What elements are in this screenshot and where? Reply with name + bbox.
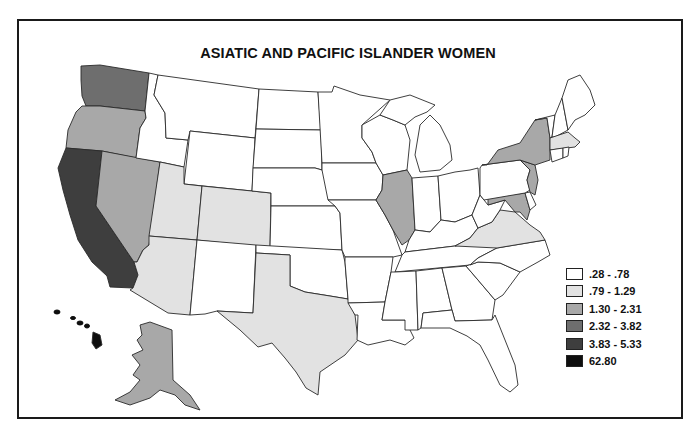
state-hi[interactable] [54, 310, 102, 349]
state-wy[interactable] [184, 131, 255, 191]
state-ak[interactable] [115, 322, 200, 410]
state-ny[interactable] [482, 118, 550, 165]
legend-swatch [566, 338, 583, 350]
map-legend: .28 - .78 .79 - 1.29 1.30 - 2.31 2.32 - … [566, 265, 642, 370]
legend-item: 2.32 - 3.82 [566, 318, 642, 336]
state-wa[interactable] [81, 65, 149, 111]
state-ks[interactable] [270, 206, 342, 250]
legend-label: 3.83 - 5.33 [589, 338, 642, 350]
legend-item: 3.83 - 5.33 [566, 335, 642, 353]
state-me[interactable] [562, 75, 595, 130]
legend-item: 1.30 - 2.31 [566, 300, 642, 318]
legend-label: 1.30 - 2.31 [589, 303, 642, 315]
state-nm[interactable] [190, 240, 256, 315]
state-ia[interactable] [322, 163, 383, 200]
state-fl[interactable] [421, 310, 518, 392]
legend-label: .28 - .78 [589, 268, 629, 280]
legend-swatch [566, 355, 583, 367]
state-sd[interactable] [253, 129, 322, 170]
state-in[interactable] [412, 176, 441, 232]
state-mt[interactable] [154, 75, 259, 140]
legend-item: .79 - 1.29 [566, 283, 642, 301]
legend-swatch [566, 320, 583, 332]
legend-swatch [566, 285, 583, 297]
state-nd[interactable] [256, 89, 321, 130]
legend-item: .28 - .78 [566, 265, 642, 283]
legend-label: 2.32 - 3.82 [589, 320, 642, 332]
legend-label: .79 - 1.29 [589, 285, 635, 297]
legend-item: 62.80 [566, 353, 642, 371]
legend-swatch [566, 268, 583, 280]
legend-label: 62.80 [589, 355, 617, 367]
state-co[interactable] [197, 186, 271, 248]
state-ct[interactable] [550, 148, 563, 162]
legend-swatch [566, 303, 583, 315]
state-ri[interactable] [563, 147, 569, 158]
